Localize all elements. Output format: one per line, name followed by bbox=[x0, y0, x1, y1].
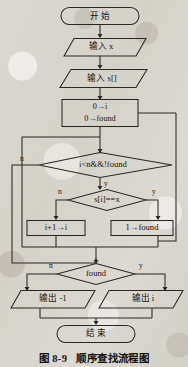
input-x-label: 输入 x bbox=[89, 40, 114, 51]
node-init: 0→i 0→found bbox=[62, 100, 138, 127]
edge-compare-yes-to-setfound bbox=[146, 200, 158, 219]
increment-label: i+1→i bbox=[45, 222, 68, 232]
edge-loop-no-to-found bbox=[12, 165, 96, 263]
branch-label-loop-yes: y bbox=[104, 179, 108, 188]
node-input-x: 输入 x bbox=[64, 39, 146, 57]
found-condition-label: found bbox=[86, 268, 107, 278]
node-compare: s[i]==x bbox=[68, 190, 146, 211]
branch-label-found-yes: y bbox=[139, 261, 143, 270]
node-output-i: 输出 i bbox=[99, 291, 183, 309]
caption-number: 图 8-9 bbox=[39, 353, 68, 364]
edge-compare-no-to-increment bbox=[56, 200, 68, 219]
compare-label: s[i]==x bbox=[94, 194, 120, 204]
node-output-neg1: 输出 -1 bbox=[11, 291, 95, 309]
branch-label-loop-no: n bbox=[20, 154, 24, 163]
figure-caption: 图 8-9顺序查找流程图 bbox=[0, 350, 188, 365]
end-label: 结 束 bbox=[86, 327, 106, 338]
input-s-label: 输入 s[] bbox=[87, 72, 116, 83]
caption-title: 顺序查找流程图 bbox=[76, 353, 149, 364]
output-neg1-label: 输出 -1 bbox=[39, 292, 66, 303]
output-i-label: 输出 i bbox=[132, 292, 155, 303]
edge-found-no-to-output-neg1 bbox=[27, 274, 57, 290]
node-end: 结 束 bbox=[57, 326, 135, 343]
branch-label-compare-no: n bbox=[58, 187, 62, 196]
node-input-s: 输入 s[] bbox=[60, 70, 147, 88]
node-start: 开 始 bbox=[61, 8, 139, 25]
node-set-found: 1→found bbox=[111, 221, 173, 236]
node-increment: i+1→i bbox=[27, 221, 85, 236]
edge-found-yes-to-output-i bbox=[135, 274, 165, 290]
flowchart-canvas: 开 始 输入 x 输入 s[] 0→i 0→found i<n&&!found … bbox=[0, 0, 188, 367]
figure-page: 开 始 输入 x 输入 s[] 0→i 0→found i<n&&!found … bbox=[0, 0, 188, 367]
node-loop-condition: i<n&&!found bbox=[39, 153, 172, 178]
start-label: 开 始 bbox=[90, 10, 110, 21]
node-found-condition: found bbox=[57, 264, 135, 285]
init-label-line1: 0→i bbox=[93, 102, 108, 111]
set-found-label: 1→found bbox=[126, 222, 160, 232]
loop-condition-label: i<n&&!found bbox=[79, 159, 128, 169]
branch-label-found-no: n bbox=[49, 261, 53, 270]
init-label-line2: 0→found bbox=[84, 114, 115, 123]
branch-label-compare-yes: y bbox=[152, 187, 156, 196]
